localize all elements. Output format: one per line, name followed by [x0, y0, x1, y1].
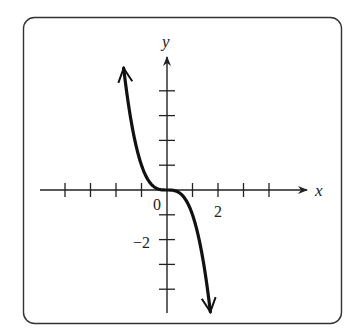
graph-figure: x y 0 2 −2 — [0, 0, 356, 332]
frame-border — [24, 18, 342, 324]
x-tick-label-2: 2 — [214, 203, 222, 220]
y-tick-label-neg2: −2 — [133, 234, 150, 251]
y-axis-label: y — [160, 32, 170, 51]
x-axis-label: x — [314, 181, 323, 200]
origin-label: 0 — [153, 196, 161, 213]
